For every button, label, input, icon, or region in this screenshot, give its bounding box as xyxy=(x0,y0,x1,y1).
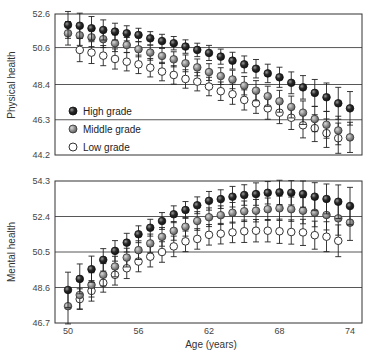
data-point xyxy=(287,181,295,205)
data-point xyxy=(182,70,190,88)
data-point xyxy=(287,72,295,94)
data-point xyxy=(193,59,201,76)
data-point xyxy=(135,241,143,260)
data-point xyxy=(158,228,166,247)
data-point xyxy=(252,219,260,241)
data-point xyxy=(76,264,84,294)
legend-label-middle-grade: Middle grade xyxy=(83,124,141,135)
data-point xyxy=(264,86,272,106)
chart-figure: 52.650.648.446.344.2 Physical health Hig… xyxy=(0,0,373,359)
data-point xyxy=(111,23,119,40)
data-point xyxy=(123,52,131,70)
data-point xyxy=(311,79,319,106)
mental-health-y-ticks: 54.352.450.548.646.7 xyxy=(32,176,50,328)
data-point xyxy=(146,219,154,236)
data-point xyxy=(170,52,178,67)
data-point xyxy=(135,226,143,243)
data-point xyxy=(240,76,248,94)
data-point xyxy=(146,58,154,76)
mental-health-y-tick-label: 50.5 xyxy=(32,247,50,257)
physical-health-y-tick-label: 52.6 xyxy=(32,9,50,19)
data-point xyxy=(170,66,178,84)
data-point xyxy=(88,256,96,282)
data-point xyxy=(123,233,131,252)
data-point xyxy=(276,90,284,112)
data-point xyxy=(264,182,272,204)
data-point xyxy=(193,229,201,250)
data-point xyxy=(193,212,201,231)
physical-health-y-tick-label: 46.3 xyxy=(32,115,50,125)
legend-item-middle-grade: Middle grade xyxy=(69,124,141,135)
physical-health-y-label: Physical health xyxy=(6,51,17,118)
mental-health-y-tick-label: 52.4 xyxy=(32,212,50,222)
data-point xyxy=(229,186,237,207)
data-point xyxy=(182,55,190,72)
data-point xyxy=(193,43,201,56)
age-x-label: Age (years) xyxy=(185,339,237,350)
mental-health-y-tick-label: 54.3 xyxy=(32,176,50,186)
data-point xyxy=(135,28,143,41)
physical-health-panel: 52.650.648.446.344.2 Physical health Hig… xyxy=(6,9,362,160)
data-point xyxy=(217,223,225,244)
data-point xyxy=(158,34,166,47)
legend-item-high-grade: High grade xyxy=(69,106,132,117)
data-point xyxy=(299,76,307,100)
mental-health-y-label: Mental health xyxy=(6,222,17,282)
data-point xyxy=(229,222,237,243)
data-point xyxy=(240,220,248,242)
data-point xyxy=(229,52,237,69)
legend-item-low-grade: Low grade xyxy=(69,142,130,153)
data-point xyxy=(205,191,213,210)
age-x-tick-label: 68 xyxy=(274,326,284,336)
data-point xyxy=(182,217,190,236)
data-point xyxy=(240,185,248,206)
legend: High grade Middle grade Low grade xyxy=(69,106,141,153)
mental-health-panel: 54.352.450.548.646.7 5056626874 Mental h… xyxy=(6,176,362,350)
data-point xyxy=(123,26,131,41)
data-point xyxy=(334,185,342,219)
data-point xyxy=(217,49,225,64)
data-point xyxy=(287,220,295,244)
data-point xyxy=(299,101,307,125)
data-point xyxy=(182,202,190,219)
data-point xyxy=(146,32,154,45)
age-x-tick-label: 56 xyxy=(133,326,143,336)
mental-health-y-tick-label: 46.7 xyxy=(32,318,50,328)
age-x-tick-label: 74 xyxy=(345,326,355,336)
high-grade-marker-icon xyxy=(69,107,77,115)
physical-health-y-ticks: 52.650.648.446.344.2 xyxy=(32,9,50,160)
physical-health-y-tick-label: 50.6 xyxy=(32,43,50,53)
data-point xyxy=(146,234,154,253)
data-point xyxy=(205,208,213,227)
data-point xyxy=(64,272,72,308)
physical-health-y-tick-label: 44.2 xyxy=(32,150,50,160)
legend-label-high-grade: High grade xyxy=(83,106,132,117)
data-point xyxy=(229,70,237,88)
middle-grade-marker-icon xyxy=(69,125,77,133)
data-point xyxy=(323,184,331,214)
data-point xyxy=(276,219,284,243)
data-point xyxy=(99,46,107,66)
data-point xyxy=(135,55,143,73)
data-point xyxy=(135,42,143,57)
age-x-ticks: 5056626874 xyxy=(63,326,355,336)
data-point xyxy=(240,56,248,73)
age-x-tick-label: 50 xyxy=(63,326,73,336)
data-point xyxy=(182,40,190,53)
data-point xyxy=(158,48,166,63)
data-point xyxy=(252,183,260,205)
data-point xyxy=(205,64,213,81)
mental-health-series-middle-grade xyxy=(64,196,354,324)
data-point xyxy=(264,64,272,82)
physical-health-y-tick-label: 48.4 xyxy=(32,80,50,90)
data-point xyxy=(264,219,272,241)
data-point xyxy=(170,206,178,223)
data-point xyxy=(346,122,354,152)
data-point xyxy=(252,59,260,77)
data-point xyxy=(205,225,213,246)
data-point xyxy=(193,197,201,214)
data-point xyxy=(111,241,119,262)
data-point xyxy=(311,183,319,211)
data-point xyxy=(334,87,342,119)
low-grade-marker-icon xyxy=(69,143,77,151)
